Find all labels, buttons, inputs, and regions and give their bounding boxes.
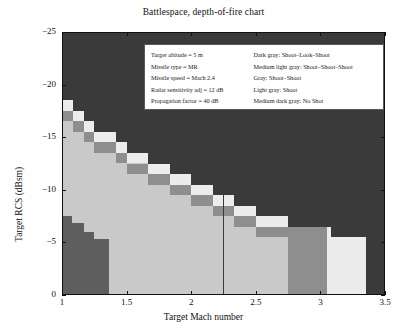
heatmap-cell-shoot-shoot [62,111,73,122]
heatmap-cell-shoot-shoot [73,121,84,132]
legend-colorkey-row: Light gray: Shoot [253,84,377,96]
x-axis-tick [62,291,63,295]
heatmap-cell-shoot-shoot [180,185,191,196]
heatmap-cell-shoot [94,132,105,143]
heatmap-cell-shoot [245,206,256,217]
legend-colorkey-column: Dark gray: Shoot–Look–ShootMedium light … [253,49,377,109]
legend-parameter-row: Target altitude = 5 m [151,49,247,61]
heatmap-cell-shoot [148,164,159,175]
heatmap-cell-shoot-shoot [137,164,148,175]
heatmap-cell-shoot [137,153,148,164]
heatmap-cell-shoot-shoot [245,216,256,227]
y-axis-tick [381,295,385,296]
y-axis-tick [62,295,66,296]
heatmap-cell-shoot-shoot [116,153,127,164]
heatmap-cell-shoot [180,174,191,185]
y-axis-tick [381,190,385,191]
x-axis-tick [385,32,386,36]
heatmap-cell-shoot-shoot [267,227,278,238]
heatmap-cell-shoot [256,216,267,227]
y-axis-title: Target RCS (dBsm) [14,167,24,242]
legend-parameter-row: Missile type = MR [151,61,247,73]
heatmap-cell-shoot-shoot [94,142,105,153]
heatmap-cell-shoot-shoot [277,227,288,238]
heatmap-cell-no-shot [94,239,108,295]
x-axis-tick [385,291,386,295]
x-axis-tick [62,32,63,36]
heatmap-cell-shoot [73,111,84,122]
heatmap-cell-shoot-shoot [256,227,267,238]
legend-colorkey-row: Medium light gray: Shoot–Shoot–Shoot [253,61,377,73]
x-axis-tick-label: 2 [171,297,211,307]
x-axis-tick-label: 3 [300,297,340,307]
heatmap-cell-shoot-shoot [148,174,159,185]
heatmap-block-shoot [327,237,366,295]
heatmap-cell-shoot [191,185,202,196]
legend-parameter-row: Missile speed = Mach 2.4 [151,72,247,84]
heatmap-cell-shoot-shoot [170,185,181,196]
y-axis-tick-label: −5 [20,236,56,246]
y-axis-tick [62,242,66,243]
heatmap-cell-shoot-shoot [84,132,95,143]
chart-title: Battlespace, depth-of-fire chart [0,7,407,17]
heatmap-cell-shoot-shoot [105,142,116,153]
heatmap-cell [127,153,138,295]
heatmap-cell-no-shot [62,216,72,295]
heatmap-cell-shoot [84,121,95,132]
y-axis-tick [62,190,66,191]
y-axis-tick [381,137,385,138]
x-axis-tick-label: 3.5 [365,297,405,307]
x-axis-tick [127,291,128,295]
x-axis-tick-label: 1.5 [107,297,147,307]
legend-colorkey-row: Dark gray: Shoot–Look–Shoot [253,49,377,61]
heatmap-cell-shoot [116,142,127,153]
x-axis-tick-label: 2.5 [236,297,276,307]
x-axis-tick [127,32,128,36]
heatmap-cell-shoot-shoot [234,216,245,227]
heatmap-cell-shoot [267,216,278,227]
heatmap-cell-shoot [202,185,213,196]
annotation-legend-box: Target altitude = 5 mMissile type = MRMi… [144,44,384,110]
x-axis-tick [191,32,192,36]
heatmap-cell-shoot-shoot [191,195,202,206]
heatmap-cell-shoot-shoot [202,195,213,206]
heatmap-cell-no-shot [84,232,94,295]
y-axis-tick-label: −25 [20,26,56,36]
heatmap-cell [116,142,127,295]
y-axis-tick-label: −10 [20,184,56,194]
heatmap-cell-shoot-shoot [127,164,138,175]
heatmap-cell-shoot [105,132,116,143]
legend-colorkey-row: Gray: Shoot–Shoot [253,72,377,84]
heatmap-cell-shoot [234,206,245,217]
heatmap-cell-shoot-shoot [213,206,224,217]
heatmap-block-dark [366,248,385,295]
y-axis-tick-label: −20 [20,79,56,89]
heatmap-cell-shoot-shoot [159,174,170,185]
heatmap-block-shoot-shoot [288,227,327,295]
heatmap-cell-shoot [127,153,138,164]
heatmap-cell-shoot [159,164,170,175]
x-axis-tick [320,291,321,295]
y-axis-tick [62,85,66,86]
heatmap-cell-shoot [213,195,224,206]
heatmap-cell-shoot [170,174,181,185]
x-axis-tick [256,32,257,36]
x-axis-tick [320,32,321,36]
legend-parameter-row: Radar sensitivity adj = 12 dB [151,84,247,96]
heatmap-cell-shoot-shoot [224,206,235,217]
x-axis-tick [256,291,257,295]
heatmap-cell [137,153,148,295]
legend-colorkey-row: Medium dark gray: No Shot [253,95,377,107]
legend-parameters-column: Target altitude = 5 mMissile type = MRMi… [151,49,247,109]
y-axis-tick-label: −15 [20,131,56,141]
x-axis-title: Target Mach number [0,312,407,322]
heatmap-cell-shoot [224,195,235,206]
y-axis-tick [381,242,385,243]
heatmap-cell-shoot [62,100,73,111]
legend-parameter-row: Propagation factor = 40 dB [151,95,247,107]
heatmap-cell-shoot [277,216,288,227]
x-axis-tick-label: 1 [42,297,82,307]
figure: Battlespace, depth-of-fire chart −25−20−… [0,0,407,334]
x-axis-tick [191,291,192,295]
y-axis-tick [62,137,66,138]
